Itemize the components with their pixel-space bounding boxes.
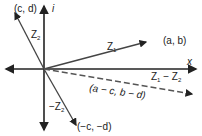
vector-z1: [44, 42, 146, 69]
vector-label-z1: Z1: [107, 42, 116, 53]
vector-label-z1-minus-z2-sub2: 2: [178, 77, 181, 83]
vector-label-z1-minus-z2: Z1 − Z2: [151, 72, 181, 83]
vector-label-neg-z2-sub: 2: [61, 107, 64, 113]
vector-label-neg-z2-name: −Z: [49, 101, 61, 112]
point-label-z2: (c, d): [14, 4, 37, 14]
vector-label-neg-z2: −Z2: [49, 102, 64, 113]
vector-label-z2: Z2: [31, 30, 40, 41]
point-label-z1: (a, b): [163, 36, 186, 46]
y-axis-label: i: [52, 4, 54, 14]
vector-z2: [15, 13, 44, 69]
x-axis-label: x: [187, 57, 192, 67]
vector-label-z1-minus-z2-minus: − Z: [160, 71, 178, 82]
vector-label-z1-sub: 1: [113, 47, 116, 53]
point-label-neg-z2: (−c, −d): [77, 122, 111, 132]
vector-neg-z2: [44, 69, 76, 125]
vector-label-z2-sub: 2: [37, 35, 40, 41]
diagram-canvas: [0, 0, 202, 136]
